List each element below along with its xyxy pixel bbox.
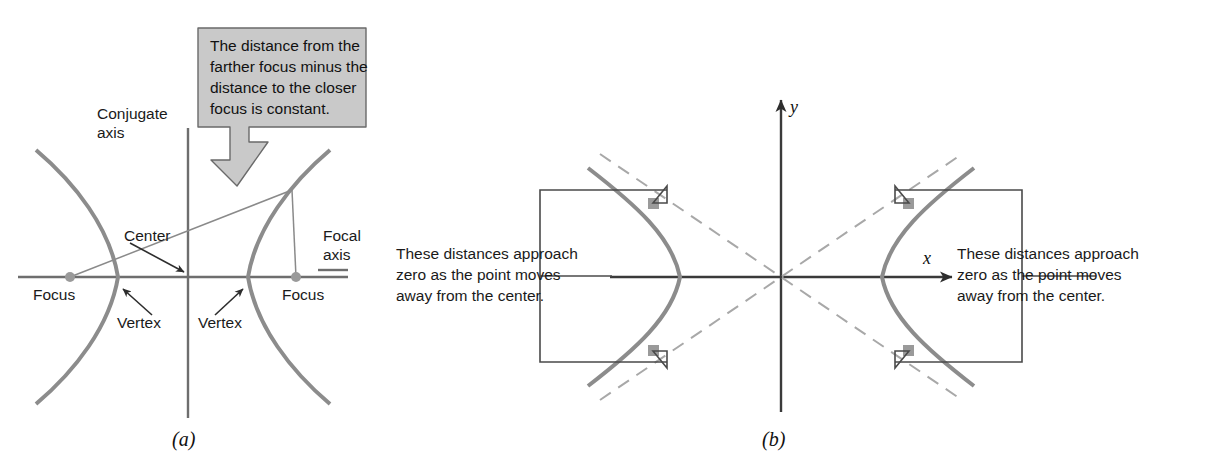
panel-b-distance-upper-right <box>895 186 909 203</box>
callout-line-4: focus is constant. <box>210 99 330 120</box>
panel-a-caption: (a) <box>172 428 195 451</box>
focus-left-label: Focus <box>33 285 75 304</box>
vertex-left-label: Vertex <box>117 313 161 332</box>
figure-graphics <box>0 0 1215 474</box>
center-label: Center <box>124 226 171 245</box>
panel-a-vertex-right-leader <box>215 289 243 315</box>
panel-b-note-right-line2: zero as the point moves <box>957 265 1122 284</box>
conjugate-axis-label-line1: Conjugate <box>97 104 168 123</box>
vertex-right-label: Vertex <box>198 313 242 332</box>
panel-a-segment-to-near-focus <box>292 190 296 277</box>
hyperbola-figure: Conjugate axis Center Focal axis Focus F… <box>0 0 1215 474</box>
panel-a-focus-right-point <box>291 272 301 282</box>
panel-b-note-right-line3: away from the center. <box>957 286 1105 305</box>
panel-b-note-left-line1: These distances approach <box>396 244 578 263</box>
callout-line-1: The distance from the <box>210 36 360 57</box>
panel-b-distance-upper-left <box>653 186 667 203</box>
panel-b-caption: (b) <box>762 428 785 451</box>
focus-right-label: Focus <box>282 285 324 304</box>
conjugate-axis-label-line2: axis <box>97 123 125 142</box>
panel-b-distance-lower-right <box>895 351 909 368</box>
panel-b-y-axis-label: y <box>790 97 798 118</box>
focal-axis-label-line1: Focal <box>323 226 361 245</box>
panel-b-note-left-line2: zero as the point moves <box>396 265 561 284</box>
panel-a-vertex-left-leader <box>123 289 152 315</box>
callout-line-2: farther focus minus the <box>210 57 368 78</box>
focal-axis-label-line2: axis <box>323 245 351 264</box>
panel-a-center-leader <box>130 243 184 272</box>
panel-a-focus-left-point <box>65 272 75 282</box>
panel-b-distance-lower-left <box>653 351 667 368</box>
panel-b-x-axis-label: x <box>923 248 931 269</box>
panel-b-note-right-line1: These distances approach <box>957 244 1139 263</box>
panel-b-note-left-line3: away from the center. <box>396 286 544 305</box>
callout-line-3: distance to the closer <box>210 78 356 99</box>
